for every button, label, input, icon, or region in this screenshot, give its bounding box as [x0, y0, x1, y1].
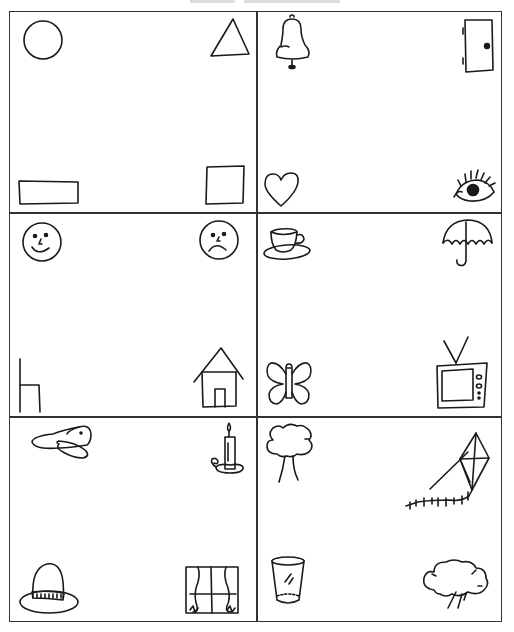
grid-divider-horizontal-2	[10, 416, 501, 418]
chair-icon: chair	[18, 358, 44, 414]
tree-icon: tree	[263, 422, 313, 486]
airplane-icon: airplane	[29, 422, 97, 466]
bell-icon: bell	[273, 15, 313, 71]
rectangle-icon: rectangle	[18, 180, 80, 206]
house-icon: house	[193, 347, 245, 411]
teacup-icon: teacup	[263, 228, 315, 264]
glass-icon: glass	[271, 556, 307, 608]
butterfly-icon: hat	[265, 360, 313, 408]
triangle-icon: triangle	[209, 17, 251, 59]
kite-icon: kite	[400, 432, 500, 512]
umbrella-icon: umbrella	[442, 219, 494, 269]
window-icon: window	[185, 566, 241, 616]
hat-icon: hat	[19, 560, 81, 616]
candle-icon: candle	[206, 421, 250, 481]
square-icon: square	[205, 165, 247, 207]
sad-face-icon: sad face	[199, 221, 241, 263]
circle-icon: circle	[22, 20, 64, 62]
television-icon: television	[436, 336, 490, 408]
rain-cloud-icon: rain cloud	[420, 558, 492, 614]
eye-icon: eye	[452, 168, 498, 206]
happy-face-icon: happy face	[22, 223, 64, 265]
cut-off-title-fragment	[190, 0, 340, 3]
grid-divider-horizontal-1	[10, 212, 501, 214]
door-icon: door	[462, 18, 496, 74]
heart-icon: heart	[263, 172, 303, 208]
worksheet-grid	[9, 11, 502, 622]
grid-divider-vertical	[256, 12, 258, 621]
